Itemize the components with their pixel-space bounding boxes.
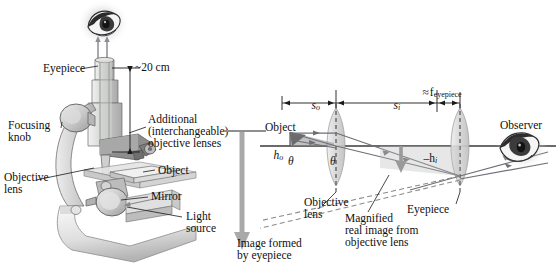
label-ho: ho [262,138,283,175]
label-observer: Observer [500,120,542,132]
microscope-body [56,57,196,262]
label-objective-lens-left-l2: lens [4,184,23,196]
label-20cm: ~20 cm [135,62,170,74]
label-eyepiece-left: Eyepiece [43,63,85,75]
mirror-icon [86,188,128,216]
figure-canvas: Eyepiece ~20 cm Focusing knob Additional… [0,0,556,270]
label-light-source-l2: source [186,223,216,235]
label-objective-lens-right-l2: lens [304,209,323,221]
label-hi: –hi [412,141,437,178]
label-magnified-l3: objective lens [345,237,409,249]
label-object-left: Object [158,165,189,177]
label-eyepiece-right: Eyepiece [407,204,449,216]
label-image-formed-l2: by eyepiece [237,250,292,262]
label-theta-1: θ [288,156,294,168]
dimension-label-feyepiece: ≈feyepiece [411,75,462,112]
label-focusing-knob-l2: knob [8,132,31,144]
label-additional-l3: objective lenses [148,138,221,150]
label-theta-2: θ [330,156,336,168]
dimension-label-si: si [382,88,400,125]
dimension-label-so: so [300,88,320,125]
label-mirror: Mirror [151,191,182,203]
label-object-right: Object [265,122,296,134]
